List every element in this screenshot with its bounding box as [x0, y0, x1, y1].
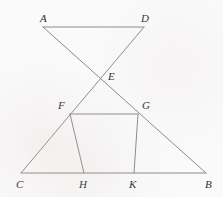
segment-DC: [21, 27, 144, 173]
vertex-label-H: H: [79, 179, 87, 190]
segment-FH: [70, 114, 84, 173]
vertex-label-A: A: [40, 13, 47, 24]
geometry-canvas: [0, 0, 223, 197]
vertex-label-B: B: [205, 179, 212, 190]
vertex-label-C: C: [16, 179, 23, 190]
segment-GK: [134, 114, 138, 173]
vertex-label-G: G: [142, 100, 150, 111]
vertex-label-K: K: [129, 179, 136, 190]
segment-AB: [43, 27, 206, 173]
vertex-label-F: F: [58, 100, 65, 111]
geometry-figure: A D E F G C H K B: [0, 0, 223, 197]
vertex-label-E: E: [108, 71, 115, 82]
vertex-label-D: D: [141, 13, 149, 24]
